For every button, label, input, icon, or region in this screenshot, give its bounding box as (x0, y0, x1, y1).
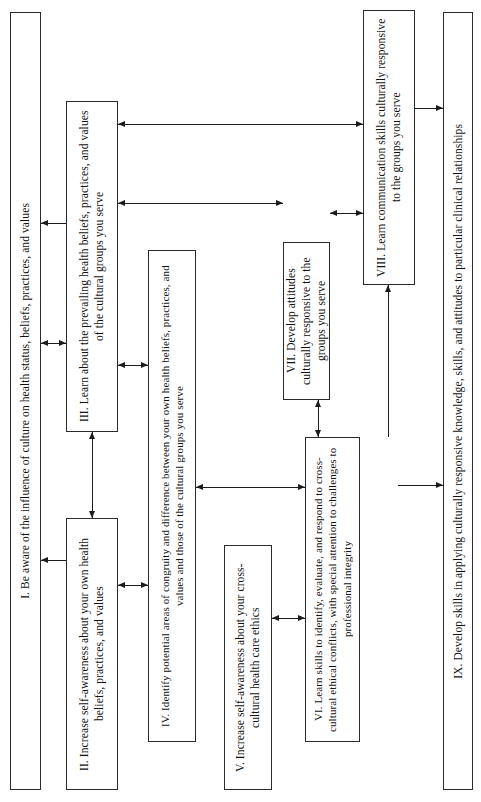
edge-vi-ix-riser (398, 485, 399, 486)
edge-iv-vi (196, 487, 305, 488)
edge-viii-ix-arrowhead (436, 105, 443, 111)
edge-iii-iv-arrowhead-right (141, 362, 148, 368)
edge-v-vi-arrowhead-right (298, 615, 305, 621)
node-box-vi[interactable]: VI. Learn skills to identify, evaluate, … (305, 437, 360, 742)
node-box-vii[interactable]: VII. Develop attitudes culturally respon… (283, 242, 330, 400)
edge-vi-viii-arrowhead-up (385, 285, 391, 292)
edge-vi-ix-arrowhead (436, 482, 443, 488)
edge-iii-viii (118, 124, 363, 125)
node-label-ix: IX. Develop skills in applying culturall… (450, 120, 467, 683)
node-label-viii: VIII. Learn communication skills cultura… (373, 11, 405, 284)
edge-ii-iii-arrowhead-down (89, 511, 95, 518)
edge-vii-viii-arrowhead-right (356, 210, 363, 216)
node-label-v: V. Increase self-awareness about your cr… (232, 546, 264, 789)
node-label-iv: IV. Identify potential areas of congruit… (157, 251, 188, 741)
node-box-iv[interactable]: IV. Identify potential areas of congruit… (148, 250, 196, 742)
node-box-ix[interactable]: IX. Develop skills in applying culturall… (443, 12, 473, 790)
edge-vii-vi-arrowhead-up (315, 400, 321, 407)
edge-iii-vii-arrowhead-left (118, 200, 125, 206)
edge-i-iii-arrowhead-right (59, 340, 66, 346)
edge-into-i-lower-arrowhead (41, 557, 48, 563)
node-box-iii[interactable]: III. Learn about the prevailing health b… (66, 101, 118, 432)
edge-ii-iv-arrowhead-right (141, 582, 148, 588)
node-label-vi: VI. Learn skills to identify, evaluate, … (310, 438, 355, 741)
edge-ii-iv-arrowhead-left (118, 582, 125, 588)
edge-ii-iii-arrowhead-up (89, 432, 95, 439)
edge-v-vi-arrowhead-left (272, 615, 279, 621)
node-box-ii[interactable]: II. Increase self-awareness about your o… (66, 518, 118, 790)
edge-i-iii-arrowhead-left (41, 340, 48, 346)
diagram-canvas: I. Be aware of the influence of culture … (0, 0, 481, 802)
node-label-iii: III. Learn about the prevailing health b… (76, 102, 108, 431)
node-label-i: I. Be aware of the influence of culture … (17, 199, 34, 603)
edge-iii-viii-arrowhead-left (118, 121, 125, 127)
edge-iii-iv-arrowhead-left (118, 362, 125, 368)
node-box-viii[interactable]: VIII. Learn communication skills cultura… (363, 10, 415, 285)
node-label-vii: VII. Develop attitudes culturally respon… (283, 243, 330, 399)
edge-vii-viii-arrowhead-left (330, 210, 337, 216)
edge-vii-vi-arrowhead-down (315, 430, 321, 437)
edge-iv-vi-arrowhead-left (196, 484, 203, 490)
edge-into-i-upper-arrowhead (41, 220, 48, 226)
edge-iv-vi-arrowhead-right (298, 484, 305, 490)
edge-ii-iii (92, 432, 93, 518)
edge-iii-vii-arrowhead-right (276, 200, 283, 206)
node-box-i[interactable]: I. Be aware of the influence of culture … (10, 12, 41, 790)
edge-iii-vii (118, 203, 283, 204)
edge-vi-viii-riser (388, 285, 389, 437)
node-label-ii: II. Increase self-awareness about your o… (76, 519, 108, 789)
node-box-v[interactable]: V. Increase self-awareness about your cr… (224, 545, 272, 790)
edge-iii-viii-arrowhead-right (356, 121, 363, 127)
